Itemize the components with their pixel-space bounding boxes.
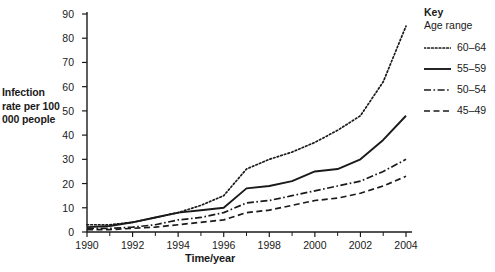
x-tick-label: 1992	[113, 240, 153, 251]
series-line-55-59	[87, 116, 406, 227]
legend-label: 55–59	[457, 63, 486, 74]
y-tick-label: 70	[54, 57, 74, 68]
series-line-60-64	[87, 26, 406, 225]
legend-label: 45–49	[457, 105, 486, 116]
legend-swatch-dash-dot-icon	[424, 85, 451, 95]
legend-entries: 60–6455–5950–5445–49	[424, 37, 494, 121]
x-tick-label: 1994	[158, 240, 198, 251]
y-tick-label: 40	[54, 130, 74, 141]
plot-area	[0, 0, 495, 272]
x-tick-label: 2004	[386, 240, 426, 251]
legend-swatch-dashed-icon	[424, 106, 451, 116]
legend-swatch-dotted-icon	[424, 43, 451, 53]
line-chart-figure: Infection rate per 100 000 people Time/y…	[0, 0, 495, 272]
legend-title: Key	[424, 6, 494, 19]
legend-item: 45–49	[424, 100, 494, 121]
legend-subtitle: Age range	[424, 19, 494, 32]
x-tick-label: 1990	[67, 240, 107, 251]
x-tick-label: 1996	[204, 240, 244, 251]
y-tick-label: 80	[54, 33, 74, 44]
x-tick-label: 2002	[340, 240, 380, 251]
legend-item: 60–64	[424, 37, 494, 58]
y-tick-label: 30	[54, 154, 74, 165]
legend-label: 50–54	[457, 84, 486, 95]
y-tick-label: 0	[54, 227, 74, 238]
legend-item: 55–59	[424, 58, 494, 79]
y-tick-label: 10	[54, 203, 74, 214]
y-tick-label: 20	[54, 179, 74, 190]
x-axis-title: Time/year	[185, 252, 235, 264]
y-tick-label: 50	[54, 106, 74, 117]
y-tick-label: 90	[54, 9, 74, 20]
chart-legend: Key Age range 60–6455–5950–5445–49	[424, 6, 494, 121]
x-tick-label: 2000	[295, 240, 335, 251]
y-tick-label: 60	[54, 82, 74, 93]
x-tick-label: 1998	[249, 240, 289, 251]
legend-swatch-solid-icon	[424, 64, 451, 74]
legend-label: 60–64	[457, 42, 486, 53]
legend-item: 50–54	[424, 79, 494, 100]
